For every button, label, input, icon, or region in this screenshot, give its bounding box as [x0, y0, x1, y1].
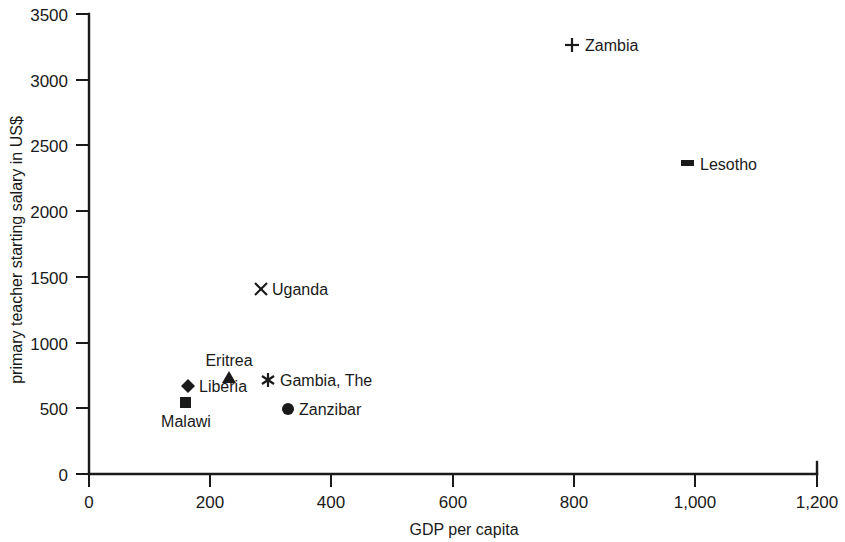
axes-group — [89, 14, 817, 474]
x-tick-label-1200: 1,200 — [796, 493, 839, 512]
y-tick-label-2500: 2500 — [30, 137, 68, 156]
y-axis-ticks: 3500 3000 2500 2000 1500 1000 500 0 — [30, 6, 89, 485]
data-point-malawi[interactable]: Malawi — [161, 397, 211, 430]
data-point-zanzibar[interactable]: Zanzibar — [282, 401, 362, 418]
data-point-zambia[interactable]: Zambia — [565, 37, 638, 54]
data-point-lesotho[interactable]: Lesotho — [681, 156, 757, 173]
y-tick-label-500: 500 — [40, 400, 68, 419]
data-point-gambia[interactable]: Gambia, The — [262, 372, 372, 389]
plus-icon — [565, 38, 579, 52]
data-label-zanzibar: Zanzibar — [299, 401, 362, 418]
y-tick-label-3500: 3500 — [30, 6, 68, 25]
data-label-lesotho: Lesotho — [700, 156, 757, 173]
asterisk-icon — [262, 373, 274, 387]
y-tick-label-1000: 1000 — [30, 335, 68, 354]
circle-icon — [282, 403, 294, 415]
x-tick-label-800: 800 — [560, 493, 588, 512]
data-label-malawi: Malawi — [161, 413, 211, 430]
y-tick-label-2000: 2000 — [30, 203, 68, 222]
x-tick-label-200: 200 — [196, 493, 224, 512]
data-label-gambia: Gambia, The — [280, 372, 372, 389]
x-axis-title: GDP per capita — [409, 521, 518, 538]
data-label-zambia: Zambia — [585, 37, 638, 54]
x-tick-label-0: 0 — [84, 493, 93, 512]
data-label-liberia: Liberia — [199, 378, 247, 395]
x-axis-ticks: 0 200 400 600 800 1,000 1,200 — [84, 474, 838, 512]
y-tick-label-3000: 3000 — [30, 72, 68, 91]
y-axis-title: primary teacher starting salary in US$ — [8, 116, 25, 384]
data-point-liberia[interactable]: Liberia — [181, 378, 247, 395]
cross-icon — [255, 283, 267, 295]
data-label-uganda: Uganda — [272, 281, 328, 298]
x-tick-label-1000: 1,000 — [674, 493, 717, 512]
x-tick-label-600: 600 — [439, 493, 467, 512]
scatter-chart: 3500 3000 2500 2000 1500 1000 500 0 0 20… — [0, 0, 845, 542]
square-icon — [180, 397, 191, 408]
diamond-icon — [181, 379, 195, 393]
y-tick-label-1500: 1500 — [30, 269, 68, 288]
x-tick-label-400: 400 — [317, 493, 345, 512]
dash-icon — [681, 160, 694, 166]
chart-canvas: 3500 3000 2500 2000 1500 1000 500 0 0 20… — [0, 0, 845, 542]
y-tick-label-0: 0 — [59, 466, 68, 485]
data-point-uganda[interactable]: Uganda — [255, 281, 328, 298]
data-label-eritrea: Eritrea — [205, 352, 252, 369]
